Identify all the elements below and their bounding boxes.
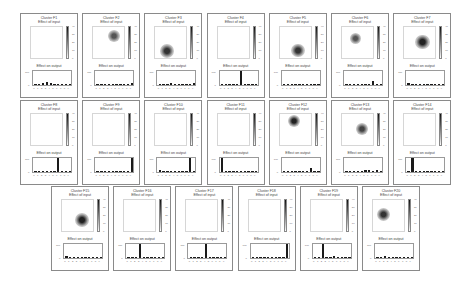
bar-xtick: 6 <box>118 174 119 177</box>
colorbar <box>190 113 193 146</box>
output-bar <box>216 257 218 258</box>
input-heatmap <box>403 26 436 59</box>
input-heatmap <box>341 26 374 59</box>
colorbar <box>315 26 318 59</box>
output-title: Effect on output <box>301 237 357 241</box>
output-bar <box>61 171 63 172</box>
output-bar-chart <box>156 70 196 86</box>
output-bar <box>181 84 183 85</box>
colorbar-tick: 20 <box>383 41 386 44</box>
colorbar-tick: 30 <box>196 33 199 36</box>
output-bar <box>376 170 378 172</box>
colorbar-tick: 10 <box>445 49 448 52</box>
bar-xtick: 4 <box>360 174 361 177</box>
output-bar <box>123 171 125 172</box>
bar-xtick: 9 <box>68 174 69 177</box>
output-bar <box>306 171 308 172</box>
output-bar <box>127 84 129 85</box>
output-bar <box>108 84 110 85</box>
output-bar-chart <box>281 70 321 86</box>
colorbar-tick: 30 <box>72 120 75 123</box>
output-bar <box>178 171 180 172</box>
bar-xtick: 3 <box>45 174 46 177</box>
colorbar-tick: 20 <box>103 214 106 217</box>
output-bar <box>407 83 409 85</box>
colorbar-tick: 20 <box>383 128 386 131</box>
colorbar-tick: 0 <box>321 144 322 147</box>
output-bar <box>399 257 401 258</box>
bar-xtick: 7 <box>184 87 185 90</box>
bar-xtick: 4 <box>173 174 174 177</box>
output-bar <box>263 257 265 258</box>
bar-xtick: 6 <box>367 174 368 177</box>
colorbar-tick: 10 <box>259 136 262 139</box>
bar-ytick: 100 <box>212 71 216 74</box>
input-heatmap <box>372 199 405 232</box>
activation-blob <box>291 44 304 57</box>
colorbar <box>346 199 349 232</box>
output-bar <box>353 84 355 85</box>
bar-ytick: 100 <box>149 71 153 74</box>
colorbar-tick: 10 <box>321 49 324 52</box>
output-bar <box>333 256 335 258</box>
bar-xtick: 3 <box>45 87 46 90</box>
bar-xtick: 5 <box>332 260 333 263</box>
colorbar <box>190 26 193 59</box>
output-bar-chart <box>32 157 72 173</box>
bar-xtick: 9 <box>192 174 193 177</box>
output-bar <box>73 257 75 258</box>
colorbar-tick: 0 <box>259 144 260 147</box>
output-bar <box>112 84 114 85</box>
output-bar <box>255 84 257 85</box>
bar-xtick: 5 <box>270 260 271 263</box>
colorbar-tick: 0 <box>196 57 197 60</box>
bar-xtick: 3 <box>324 260 325 263</box>
activation-blob <box>377 208 390 221</box>
bar-xtick: 6 <box>274 260 275 263</box>
colorbar-tick: 10 <box>290 222 293 225</box>
output-bar <box>34 84 36 85</box>
bar-xtick: 4 <box>422 174 423 177</box>
output-bar <box>259 257 261 258</box>
bar-xtick: 3 <box>418 87 419 90</box>
output-bar <box>181 171 183 172</box>
bar-xtick: 5 <box>208 260 209 263</box>
bar-xtick: 6 <box>429 87 430 90</box>
colorbar-tick: 20 <box>134 128 137 131</box>
colorbar-tick: 40 <box>196 25 199 28</box>
bar-xtick: 2 <box>352 174 353 177</box>
output-bar <box>306 84 308 85</box>
colorbar-tick: 40 <box>445 25 448 28</box>
colorbar-tick: 10 <box>165 222 168 225</box>
output-bar <box>162 84 164 85</box>
colorbar <box>66 113 69 146</box>
bar-xtick: 0 <box>64 260 65 263</box>
output-bar <box>92 257 94 258</box>
output-bar <box>349 171 351 172</box>
bar-ytick: 100 <box>87 71 91 74</box>
output-bar <box>286 244 288 259</box>
output-bar <box>61 84 63 85</box>
output-bar <box>302 84 304 85</box>
output-title: Effect on output <box>83 151 139 155</box>
bar-xtick: 9 <box>254 174 255 177</box>
output-bar-chart <box>187 243 227 259</box>
bar-xtick: 0 <box>251 260 252 263</box>
colorbar-tick: 20 <box>72 41 75 44</box>
colorbar <box>66 26 69 59</box>
bar-xtick: 4 <box>266 260 267 263</box>
output-bar <box>221 158 223 173</box>
bar-xtick: 7 <box>277 260 278 263</box>
colorbar-tick: 20 <box>321 128 324 131</box>
colorbar-tick: 40 <box>72 112 75 115</box>
bar-xtick: 1 <box>37 87 38 90</box>
output-bar <box>380 257 382 258</box>
colorbar-tick: 10 <box>321 136 324 139</box>
bar-xtick: 5 <box>83 260 84 263</box>
bar-xtick: 8 <box>188 174 189 177</box>
bar-xtick: 0 <box>158 87 159 90</box>
bar-xtick: 7 <box>153 260 154 263</box>
bar-xtick: 6 <box>367 87 368 90</box>
colorbar-tick: 0 <box>352 230 353 233</box>
colorbar <box>128 26 131 59</box>
